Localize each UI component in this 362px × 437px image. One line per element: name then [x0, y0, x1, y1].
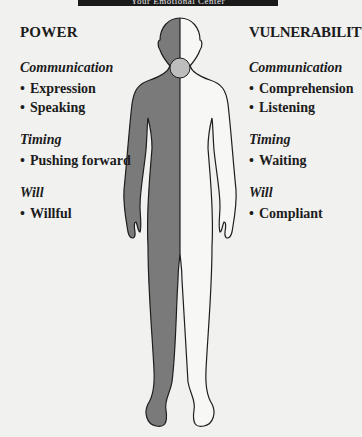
bullet-icon: • — [249, 98, 259, 117]
power-heading: POWER — [20, 24, 140, 41]
bullet-icon: • — [20, 204, 30, 223]
list-item: •Speaking — [20, 98, 140, 117]
vulnerability-group-will: Will •Compliant — [249, 184, 362, 223]
list-item: •Waiting — [249, 151, 362, 170]
category-label: Timing — [20, 131, 140, 149]
category-label: Will — [20, 184, 140, 202]
category-label: Communication — [249, 59, 362, 77]
bullet-icon: • — [20, 98, 30, 117]
list-item: •Listening — [249, 98, 362, 117]
category-label: Communication — [20, 59, 140, 77]
list-item: •Compliant — [249, 204, 362, 223]
vulnerability-heading: VULNERABILITY — [249, 24, 362, 41]
list-item: •Comprehension — [249, 79, 362, 98]
throat-circle-icon — [170, 58, 190, 78]
bullet-icon: • — [20, 151, 30, 170]
list-item: •Willful — [20, 204, 140, 223]
power-group-timing: Timing •Pushing forward — [20, 131, 140, 170]
bullet-icon: • — [249, 79, 259, 98]
vulnerability-group-timing: Timing •Waiting — [249, 131, 362, 170]
vulnerability-column: VULNERABILITY Communication •Comprehensi… — [249, 24, 362, 237]
category-label: Timing — [249, 131, 362, 149]
list-item: •Expression — [20, 79, 140, 98]
bullet-icon: • — [20, 79, 30, 98]
power-column: POWER Communication •Expression •Speakin… — [20, 24, 140, 237]
power-group-communication: Communication •Expression •Speaking — [20, 59, 140, 117]
list-item: •Pushing forward — [20, 151, 140, 170]
bullet-icon: • — [249, 204, 259, 223]
bullet-icon: • — [249, 151, 259, 170]
power-group-will: Will •Willful — [20, 184, 140, 223]
vulnerability-group-communication: Communication •Comprehension •Listening — [249, 59, 362, 117]
category-label: Will — [249, 184, 362, 202]
